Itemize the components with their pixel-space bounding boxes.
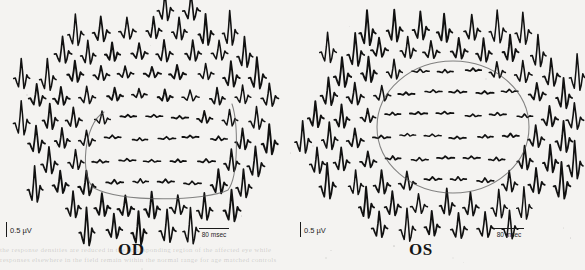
erg-trace bbox=[529, 83, 546, 101]
erg-trace bbox=[503, 35, 519, 61]
erg-trace bbox=[502, 171, 518, 192]
erg-trace bbox=[183, 208, 199, 244]
erg-trace bbox=[437, 70, 453, 73]
erg-trace bbox=[528, 125, 545, 147]
erg-trace bbox=[411, 158, 428, 161]
erg-trace bbox=[398, 92, 414, 95]
erg-trace bbox=[198, 159, 215, 163]
reduced-response-outline bbox=[377, 61, 529, 193]
time-bar-icon bbox=[199, 228, 229, 229]
erg-trace bbox=[146, 16, 161, 38]
mferg-panel-os bbox=[293, 0, 585, 270]
erg-trace bbox=[53, 87, 70, 105]
erg-trace bbox=[515, 12, 531, 44]
scan-speck bbox=[563, 227, 564, 228]
erg-trace bbox=[68, 150, 84, 170]
erg-trace bbox=[237, 37, 253, 68]
time-scale-os: 80 msec bbox=[494, 228, 524, 238]
erg-trace bbox=[425, 90, 442, 93]
erg-trace bbox=[43, 104, 58, 130]
scan-speck bbox=[241, 215, 243, 217]
erg-trace bbox=[320, 32, 337, 62]
scan-speck bbox=[312, 145, 314, 147]
erg-trace bbox=[224, 190, 241, 221]
eye-label-od: OD bbox=[118, 240, 145, 260]
amplitude-scale-label-os: 0.5 µV bbox=[304, 226, 326, 235]
erg-trace bbox=[262, 124, 278, 154]
erg-trace bbox=[211, 136, 227, 140]
erg-trace bbox=[463, 156, 480, 159]
erg-trace bbox=[236, 169, 252, 197]
erg-trace bbox=[372, 211, 388, 237]
trace-array-os bbox=[293, 0, 585, 270]
erg-trace bbox=[223, 61, 240, 86]
erg-trace bbox=[566, 103, 583, 129]
erg-trace bbox=[117, 66, 133, 78]
erg-trace bbox=[93, 66, 109, 80]
erg-trace bbox=[399, 208, 415, 241]
erg-trace bbox=[437, 14, 452, 42]
erg-trace bbox=[361, 57, 377, 82]
erg-trace bbox=[465, 114, 481, 116]
erg-trace bbox=[528, 168, 544, 193]
erg-trace bbox=[476, 91, 493, 94]
erg-trace bbox=[119, 17, 136, 39]
erg-trace bbox=[249, 107, 265, 130]
erg-trace bbox=[143, 160, 160, 162]
erg-trace bbox=[41, 147, 58, 174]
erg-trace bbox=[322, 122, 338, 149]
erg-trace bbox=[146, 115, 163, 118]
erg-trace bbox=[476, 38, 492, 62]
erg-trace bbox=[477, 178, 494, 183]
erg-trace bbox=[449, 136, 466, 138]
erg-trace bbox=[386, 156, 401, 160]
erg-trace bbox=[477, 212, 494, 237]
erg-trace bbox=[183, 0, 200, 20]
erg-trace bbox=[400, 37, 416, 59]
erg-trace bbox=[235, 128, 250, 149]
time-scale-label-od: 80 msec bbox=[199, 231, 229, 238]
erg-trace bbox=[120, 115, 136, 117]
erg-trace bbox=[466, 68, 481, 71]
erg-trace bbox=[349, 170, 364, 195]
erg-trace bbox=[172, 17, 187, 40]
amplitude-scale-od: 0.5 µV bbox=[6, 222, 32, 237]
erg-trace bbox=[464, 15, 481, 40]
erg-trace bbox=[105, 135, 121, 138]
erg-trace bbox=[424, 134, 441, 136]
erg-trace bbox=[543, 145, 558, 172]
erg-trace bbox=[66, 107, 82, 127]
amplitude-bar-icon bbox=[6, 222, 7, 237]
eye-label-os: OS bbox=[409, 240, 433, 260]
erg-trace bbox=[211, 169, 227, 193]
erg-trace bbox=[491, 189, 507, 217]
erg-trace bbox=[132, 89, 147, 98]
erg-trace bbox=[247, 146, 264, 176]
erg-trace bbox=[106, 180, 123, 184]
erg-trace bbox=[261, 83, 278, 106]
erg-trace bbox=[423, 41, 440, 58]
erg-trace bbox=[172, 116, 189, 119]
erg-trace bbox=[67, 61, 83, 82]
erg-trace bbox=[374, 170, 391, 194]
erg-trace bbox=[359, 10, 375, 45]
erg-trace bbox=[360, 151, 377, 167]
erg-trace bbox=[105, 42, 120, 60]
erg-trace bbox=[211, 40, 227, 60]
erg-trace bbox=[451, 177, 467, 181]
erg-trace bbox=[449, 90, 466, 93]
erg-trace bbox=[184, 181, 201, 184]
erg-trace bbox=[410, 112, 427, 114]
time-scale-label-os: 80 msec bbox=[494, 231, 524, 238]
erg-trace bbox=[55, 128, 70, 148]
erg-trace bbox=[554, 162, 571, 199]
erg-trace bbox=[170, 159, 185, 162]
erg-trace bbox=[81, 40, 96, 64]
erg-trace bbox=[68, 14, 84, 45]
erg-trace bbox=[156, 40, 173, 62]
erg-trace bbox=[451, 213, 468, 238]
erg-trace bbox=[295, 121, 311, 153]
erg-trace bbox=[387, 10, 403, 42]
scan-speck bbox=[452, 257, 454, 259]
erg-trace bbox=[197, 111, 213, 123]
